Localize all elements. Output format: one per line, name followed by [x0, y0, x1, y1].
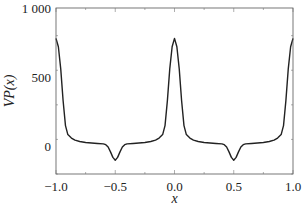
x-axis-label: x	[170, 191, 178, 206]
x-tick-label: −0.5	[103, 179, 127, 194]
ticks	[56, 8, 293, 174]
axes-frame	[56, 8, 293, 174]
y-tick-label: 0	[45, 139, 52, 154]
y-axis-label: VP(x)	[2, 74, 18, 107]
series-line	[56, 38, 293, 160]
chart: −1.0−0.50.00.51.0 05001 000 x VP(x)	[0, 0, 302, 208]
y-tick-label: 1 000	[22, 1, 51, 16]
x-tick-label: −1.0	[44, 179, 68, 194]
y-tick-label: 500	[32, 70, 52, 85]
x-tick-label: 0.5	[226, 179, 242, 194]
x-tick-label: 1.0	[285, 179, 301, 194]
y-tick-labels: 05001 000	[22, 1, 51, 154]
